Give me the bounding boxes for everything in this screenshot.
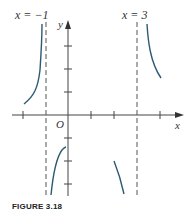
figure-diagram: x = −1 x = 3 y x O FIGURE 3.18 [0,0,194,212]
curve-right-branch [147,24,161,78]
y-axis-label: y [57,18,63,30]
x-axis-arrow-icon [175,112,184,118]
y-axis-arrow-icon [65,20,71,29]
asymptote-label-right: x = 3 [121,8,147,22]
x-axis-label: x [174,119,180,131]
curve-left-branch [24,24,42,104]
curve-middle-lower [114,161,124,194]
curve-middle-upper [51,147,66,195]
figure-caption: FIGURE 3.18 [12,202,63,211]
asymptote-label-left: x = −1 [14,8,49,22]
origin-label: O [56,118,64,130]
